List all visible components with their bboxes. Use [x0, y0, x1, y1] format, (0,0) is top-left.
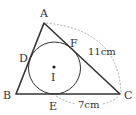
- label-a: A: [39, 7, 49, 20]
- incenter-point: [52, 65, 55, 68]
- label-d: D: [19, 52, 28, 65]
- triangle-incircle-diagram: A B C D E F I 11cm 7cm: [0, 0, 136, 115]
- label-e: E: [49, 100, 57, 113]
- dimension-arc-ac: [46, 23, 121, 92]
- label-i: I: [51, 71, 55, 84]
- label-b: B: [3, 89, 11, 102]
- label-c: C: [124, 89, 132, 102]
- measurement-ac: 11cm: [88, 46, 116, 57]
- triangle-abc: [16, 23, 120, 94]
- label-f: F: [70, 37, 78, 50]
- measurement-ec: 7cm: [78, 99, 100, 110]
